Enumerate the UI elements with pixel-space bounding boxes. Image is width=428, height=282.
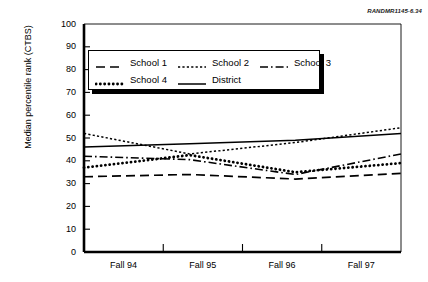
legend-item-district: District bbox=[177, 74, 241, 85]
plot-area bbox=[0, 0, 428, 282]
legend-row-1: School 1School 2School 3 bbox=[95, 54, 313, 71]
legend-item-school-1: School 1 bbox=[95, 57, 167, 68]
legend-label: School 3 bbox=[294, 57, 331, 68]
legend-label: District bbox=[212, 74, 241, 85]
series-line-school-2 bbox=[84, 128, 401, 154]
legend-label: School 4 bbox=[130, 74, 167, 85]
figure-chart: RANDMR1145-6.34 Median percentile rank (… bbox=[0, 0, 428, 282]
legend-swatch-fine-dot-icon bbox=[177, 58, 207, 68]
legend-label: School 2 bbox=[212, 57, 249, 68]
legend-label: School 1 bbox=[130, 57, 167, 68]
legend-swatch-thick-dot-icon bbox=[95, 75, 125, 85]
legend-swatch-dash-dot-icon bbox=[259, 58, 289, 68]
series-line-district bbox=[84, 133, 401, 147]
data-series-group bbox=[84, 128, 401, 179]
legend-item-school-4: School 4 bbox=[95, 74, 167, 85]
legend-swatch-solid-icon bbox=[177, 75, 207, 85]
legend-swatch-long-dash-icon bbox=[95, 58, 125, 68]
legend-item-school-2: School 2 bbox=[177, 57, 249, 68]
legend-row-2: School 4District bbox=[95, 71, 313, 88]
legend-item-school-3: School 3 bbox=[259, 57, 331, 68]
chart-legend: School 1School 2School 3 School 4Distric… bbox=[88, 50, 320, 90]
series-line-school-1 bbox=[84, 173, 401, 179]
